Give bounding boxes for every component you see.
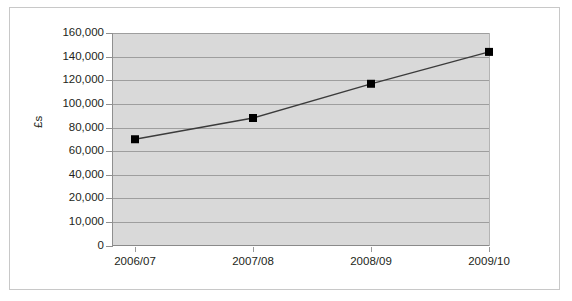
x-axis-tick-label: 2006/07	[75, 256, 195, 268]
y-axis-tick-label: 120,000	[4, 74, 104, 86]
y-axis-tick	[106, 104, 112, 105]
y-axis-tick-label: 80,000	[4, 122, 104, 134]
gridline	[113, 175, 489, 176]
gridline-baseline	[113, 245, 489, 246]
y-axis-tick	[106, 33, 112, 34]
gridline	[113, 128, 489, 129]
y-axis-tick-label: 60,000	[4, 145, 104, 157]
x-axis-tick	[489, 247, 490, 252]
plot-area	[112, 33, 490, 246]
y-axis-tick	[106, 246, 112, 247]
gridline	[113, 222, 489, 223]
y-axis-tick-label: 0	[4, 240, 104, 252]
gridline	[113, 57, 489, 58]
x-axis-tick-label: 2008/09	[311, 256, 431, 268]
y-axis-title: £s	[33, 116, 45, 128]
y-axis-tick	[106, 175, 112, 176]
y-axis-tick-label: 10,000	[4, 216, 104, 228]
gridline	[113, 33, 489, 34]
y-axis-tick-label: 160,000	[4, 27, 104, 39]
y-axis-tick	[106, 198, 112, 199]
gridline	[113, 198, 489, 199]
gridline	[113, 151, 489, 152]
x-axis-tick	[371, 247, 372, 252]
y-axis-tick	[106, 57, 112, 58]
x-axis-tick-label: 2007/08	[193, 256, 313, 268]
y-axis-tick-label: 140,000	[4, 51, 104, 63]
y-axis-tick-label: 100,000	[4, 98, 104, 110]
x-axis-tick	[135, 247, 136, 252]
x-axis-tick-label: 2009/10	[429, 256, 549, 268]
y-axis-tick	[106, 128, 112, 129]
y-axis-tick	[106, 222, 112, 223]
y-axis-line	[112, 33, 113, 247]
y-axis-tick-label: 40,000	[4, 169, 104, 181]
gridline	[113, 104, 489, 105]
x-axis-tick	[253, 247, 254, 252]
y-axis-tick	[106, 151, 112, 152]
y-axis-tick-label: 20,000	[4, 192, 104, 204]
gridline	[113, 80, 489, 81]
y-axis-tick	[106, 80, 112, 81]
